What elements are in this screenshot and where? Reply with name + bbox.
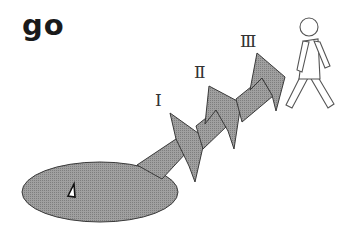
- walking-person-icon: [286, 18, 334, 108]
- progress-diagram: Ⅰ Ⅱ Ⅲ: [0, 0, 352, 234]
- stage-label-2: Ⅱ: [194, 62, 206, 82]
- stage-label-1: Ⅰ: [155, 90, 162, 110]
- stage-label-3: Ⅲ: [240, 31, 256, 51]
